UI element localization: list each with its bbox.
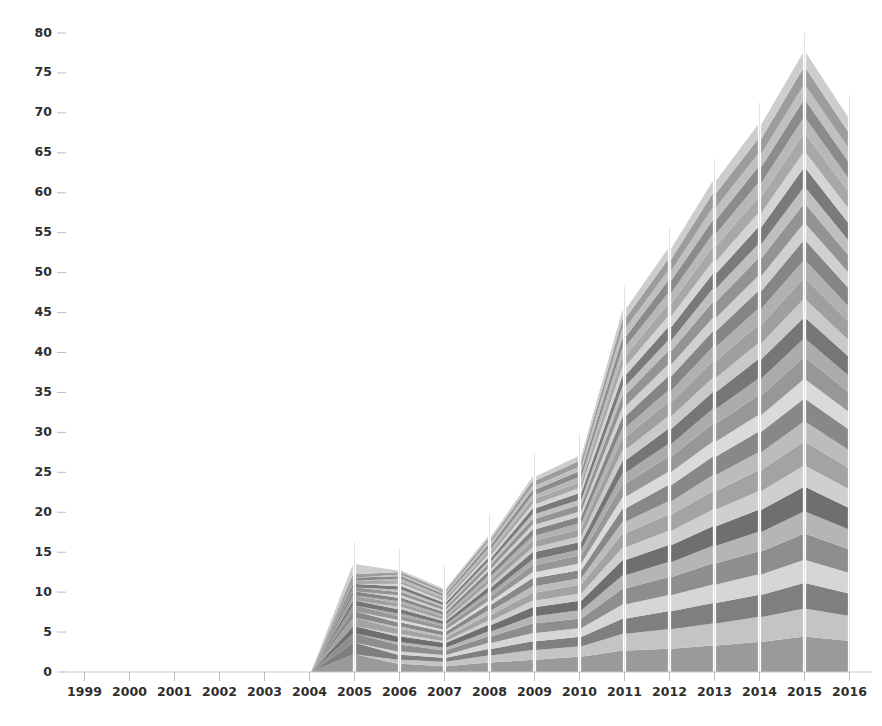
y-tick-label: 80 (35, 25, 53, 40)
x-tick-label: 2015 (787, 684, 822, 699)
y-tick-label: 20 (35, 504, 53, 519)
y-tick-label: 75 (35, 64, 52, 79)
y-tick-label: 15 (35, 544, 52, 559)
y-tick-label: 5 (43, 624, 52, 639)
stacked-area-chart: 05101520253035404550556065707580 1999200… (0, 0, 882, 726)
area-segment (626, 649, 668, 672)
x-tick-label: 2002 (202, 684, 237, 699)
x-tick-label: 2000 (112, 684, 147, 699)
x-tick-label: 2007 (427, 684, 462, 699)
y-tick-label: 0 (43, 664, 52, 679)
y-tick-label: 35 (35, 384, 52, 399)
y-tick-label: 70 (35, 104, 53, 119)
y-tick-label: 45 (35, 304, 52, 319)
y-tick-label: 65 (35, 144, 52, 159)
y-tick-label: 30 (35, 424, 53, 439)
x-tick-label: 2010 (562, 684, 597, 699)
area-segment (716, 642, 758, 672)
y-tick-label: 40 (35, 344, 53, 359)
x-tick-label: 2006 (382, 684, 417, 699)
x-tick-label: 1999 (67, 684, 102, 699)
chart-page: 05101520253035404550556065707580 1999200… (0, 0, 882, 726)
y-tick-label: 60 (35, 184, 53, 199)
x-tick-label: 2013 (697, 684, 732, 699)
x-tick-label: 2001 (157, 684, 192, 699)
area-segment (671, 645, 713, 672)
x-tick-label: 2008 (472, 684, 507, 699)
area-segment (356, 581, 398, 584)
area-segment (761, 637, 803, 672)
y-tick-label: 50 (35, 264, 53, 279)
y-tick-label: 25 (35, 464, 52, 479)
x-tick-label: 2011 (607, 684, 642, 699)
area-segment (806, 637, 848, 672)
x-tick-label: 2009 (517, 684, 552, 699)
x-tick-label: 2003 (247, 684, 282, 699)
x-tick-label: 2016 (832, 684, 867, 699)
y-tick-label: 55 (35, 224, 52, 239)
y-tick-label: 10 (35, 584, 53, 599)
x-tick-label: 2005 (337, 684, 372, 699)
x-tick-label: 2014 (742, 684, 777, 699)
x-tick-label: 2004 (292, 684, 327, 699)
x-tick-label: 2012 (652, 684, 687, 699)
